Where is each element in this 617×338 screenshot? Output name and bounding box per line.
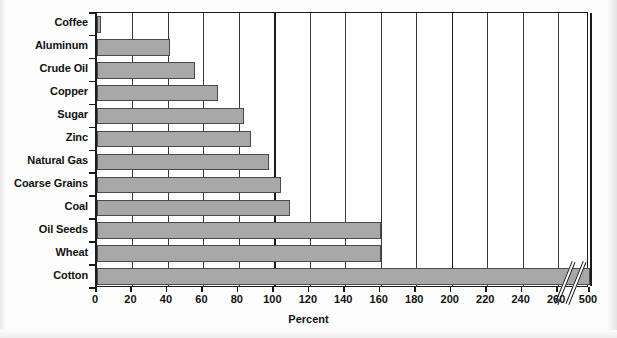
- value-tick-20: [130, 287, 132, 292]
- category-tick-6: [89, 150, 95, 152]
- value-label-200: 200: [441, 293, 459, 305]
- category-label-copper: Copper: [0, 85, 88, 97]
- value-tick-180: [414, 287, 416, 292]
- category-tick-9: [89, 218, 95, 220]
- value-label-500: 500: [579, 293, 597, 305]
- value-tick-240: [521, 287, 523, 292]
- category-label-cotton: Cotton: [0, 269, 88, 281]
- gridline-220: [487, 13, 488, 286]
- category-tick-10: [89, 241, 95, 243]
- category-label-crude-oil: Crude Oil: [0, 62, 88, 74]
- gridline-260: [558, 13, 559, 286]
- value-tick-120: [308, 287, 310, 292]
- category-label-oil-seeds: Oil Seeds: [0, 223, 88, 235]
- value-label-20: 20: [124, 293, 136, 305]
- bar-aluminum: [97, 39, 170, 56]
- category-label-wheat: Wheat: [0, 246, 88, 258]
- category-tick-7: [89, 172, 95, 174]
- bar-crude-oil: [97, 62, 195, 79]
- category-tick-8: [89, 195, 95, 197]
- category-tick-0: [89, 12, 95, 14]
- bar-oil-seeds: [97, 222, 381, 239]
- value-label-140: 140: [334, 293, 352, 305]
- value-label-220: 220: [476, 293, 494, 305]
- bar-natural-gas: [97, 154, 269, 171]
- value-tick-0: [95, 287, 97, 292]
- value-label-160: 160: [370, 293, 388, 305]
- category-tick-5: [89, 127, 95, 129]
- value-tick-140: [343, 287, 345, 292]
- category-tick-1: [89, 35, 95, 37]
- bar-coal: [97, 200, 290, 217]
- gridline-160: [381, 13, 382, 286]
- category-label-coarse-grains: Coarse Grains: [0, 177, 88, 189]
- gridline-200: [452, 13, 454, 286]
- value-label-240: 240: [511, 293, 529, 305]
- category-tick-2: [89, 58, 95, 60]
- category-label-natural-gas: Natural Gas: [0, 154, 88, 166]
- value-tick-260: [556, 287, 558, 292]
- value-tick-200: [450, 287, 452, 292]
- bar-zinc: [97, 131, 251, 148]
- page-edge-right: [607, 0, 617, 338]
- value-tick-40: [166, 287, 168, 292]
- bar-coarse-grains: [97, 177, 281, 194]
- value-tick-500: [588, 287, 590, 292]
- gridline-180: [416, 13, 417, 286]
- category-tick-3: [89, 81, 95, 83]
- value-label-120: 120: [299, 293, 317, 305]
- value-label-80: 80: [231, 293, 243, 305]
- category-label-coal: Coal: [0, 200, 88, 212]
- value-tick-220: [485, 287, 487, 292]
- category-label-aluminum: Aluminum: [0, 39, 88, 51]
- value-label-180: 180: [405, 293, 423, 305]
- value-tick-60: [201, 287, 203, 292]
- category-label-coffee: Coffee: [0, 16, 88, 28]
- value-label-40: 40: [160, 293, 172, 305]
- value-label-60: 60: [195, 293, 207, 305]
- gridline-240: [523, 13, 524, 286]
- value-label-100: 100: [263, 293, 281, 305]
- x-axis-title: Percent: [0, 313, 617, 325]
- gridline-500: [590, 13, 592, 286]
- category-tick-4: [89, 104, 95, 106]
- bar-coffee: [97, 16, 101, 33]
- bar-copper: [97, 85, 218, 102]
- value-tick-80: [237, 287, 239, 292]
- value-tick-100: [272, 287, 274, 292]
- value-tick-160: [379, 287, 381, 292]
- plot-area: [95, 12, 588, 287]
- bar-wheat: [97, 245, 381, 262]
- category-label-sugar: Sugar: [0, 108, 88, 120]
- category-tick-11: [89, 264, 95, 266]
- bar-sugar: [97, 108, 244, 125]
- bar-cotton: [97, 268, 590, 285]
- bar-chart: CoffeeAluminumCrude OilCopperSugarZincNa…: [0, 0, 617, 338]
- value-label-260: 260: [547, 293, 565, 305]
- page-edge-bottom: [0, 330, 617, 338]
- value-label-0: 0: [92, 293, 98, 305]
- category-label-zinc: Zinc: [0, 131, 88, 143]
